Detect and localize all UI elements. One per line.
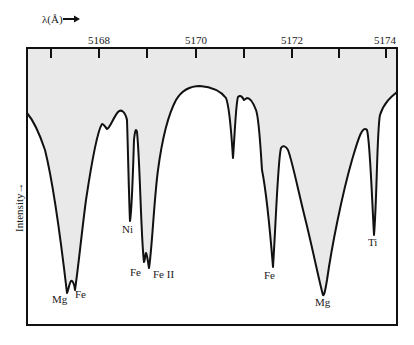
y-axis-title: Intensity→ [13, 183, 25, 233]
arrow-right-icon [63, 16, 80, 23]
line-label-ni: Ni [122, 223, 133, 235]
tick-label-5172: 5172 [281, 34, 303, 46]
line-label-fe-5167: Fe [75, 288, 86, 300]
line-label-fe-ii: Fe II [153, 268, 174, 280]
shaded-continuum-area [27, 48, 397, 295]
tick-label-5170: 5170 [185, 34, 208, 46]
x-axis-title: λ(Å) [42, 13, 63, 26]
spectrum-chart: 5168 5170 5172 5174 λ(Å) Intensity→ Mg F… [0, 0, 414, 345]
line-label-fe-5171: Fe [264, 269, 275, 281]
tick-label-5168: 5168 [88, 34, 111, 46]
line-label-mg-5172: Mg [315, 296, 331, 308]
line-label-mg-5167: Mg [52, 293, 68, 305]
tick-label-5174: 5174 [374, 34, 397, 46]
line-label-ti: Ti [368, 236, 377, 248]
line-label-fe-5169: Fe [130, 266, 141, 278]
